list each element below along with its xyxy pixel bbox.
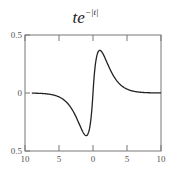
y-tick-label: 0.5 <box>11 146 23 156</box>
data-series-line <box>32 50 161 135</box>
y-tick-label: 0 <box>18 88 23 98</box>
x-tick-label: 5 <box>57 154 62 164</box>
x-tick-label: 10 <box>157 154 167 164</box>
y-tick-label: 0.5 <box>11 30 23 40</box>
line-chart: 10505100.500.5 <box>0 0 171 177</box>
tick-labels: 10505100.500.5 <box>11 30 166 164</box>
x-tick-label: 0 <box>91 154 96 164</box>
x-tick-label: 5 <box>125 154 130 164</box>
